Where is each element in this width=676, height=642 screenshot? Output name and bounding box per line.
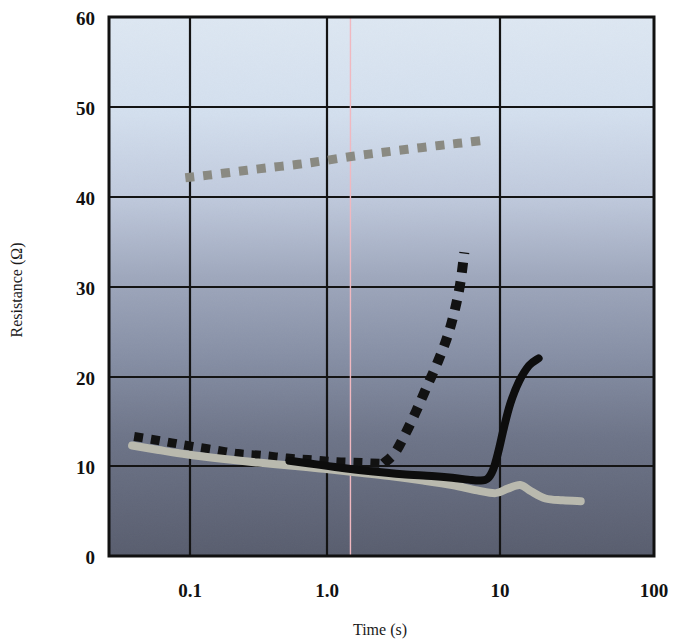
x-tick-10: 10 <box>491 580 510 601</box>
x-tick-1-0: 1.0 <box>315 580 339 601</box>
y-axis-title: Resistance (Ω) <box>8 243 26 338</box>
x-tick-100: 100 <box>640 580 669 601</box>
y-tick-10: 10 <box>76 457 95 478</box>
y-tick-60: 60 <box>76 8 95 29</box>
y-tick-40: 40 <box>76 188 95 209</box>
y-tick-30: 30 <box>76 278 95 299</box>
x-tick-0-1: 0.1 <box>178 580 202 601</box>
y-tick-50: 50 <box>76 98 95 119</box>
resistance-vs-time-chart: 60 50 40 30 20 10 0 0.1 1.0 10 100 Time … <box>0 0 676 642</box>
y-tick-20: 20 <box>76 368 95 389</box>
y-tick-0: 0 <box>86 547 96 568</box>
chart-figure: 60 50 40 30 20 10 0 0.1 1.0 10 100 Time … <box>0 0 676 642</box>
x-axis-title: Time (s) <box>353 621 407 639</box>
